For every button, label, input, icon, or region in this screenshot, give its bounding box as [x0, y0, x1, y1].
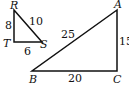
- vertex-c-label: C: [113, 73, 122, 86]
- side-ab-label: 25: [61, 28, 75, 41]
- triangles-diagram: R T S 8 10 6 A B C 25 15 20: [0, 0, 129, 87]
- side-rt-label: 8: [5, 19, 12, 32]
- vertex-b-label: B: [28, 73, 37, 86]
- vertex-a-label: A: [113, 0, 122, 11]
- vertex-s-label: S: [40, 38, 48, 51]
- side-ac-label: 15: [119, 35, 129, 48]
- diagram-canvas: R T S 8 10 6 A B C 25 15 20: [0, 0, 129, 87]
- side-rs-label: 10: [29, 15, 43, 28]
- side-bc-label: 20: [68, 72, 82, 85]
- vertex-r-label: R: [9, 0, 18, 12]
- side-ts-label: 6: [24, 45, 31, 58]
- vertex-t-label: T: [3, 37, 12, 50]
